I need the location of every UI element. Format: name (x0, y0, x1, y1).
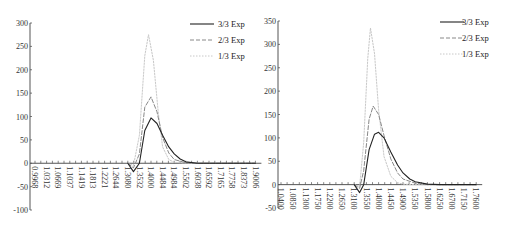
y-tick-label: 100 (16, 113, 28, 122)
x-tick-label: 1.4900 (398, 188, 407, 210)
x-tick-label: 1.2650 (337, 188, 346, 210)
x-tick-label: 1.6250 (435, 188, 444, 210)
right-chart: 350300250200150100500-501.04001.08501.13… (264, 17, 489, 213)
x-tick-label: 1.0312 (42, 166, 51, 188)
x-tick-label: 1.5800 (423, 188, 432, 210)
left-chart: 300250200150100500-50-1000.99681.03121.0… (13, 19, 261, 215)
legend-label: 1/3 Exp (218, 51, 245, 61)
legend-label: 2/3 Exp (462, 33, 489, 43)
y-tick-label: 300 (264, 40, 276, 49)
y-tick-label: 200 (264, 87, 276, 96)
y-tick-label: 300 (16, 19, 28, 28)
y-tick-label: 350 (264, 17, 276, 26)
legend: 3/3 Exp2/3 Exp1/3 Exp (190, 19, 245, 61)
y-tick-label: 50 (268, 157, 276, 166)
y-tick-label: 50 (20, 136, 28, 145)
x-tick-label: 1.4000 (146, 166, 155, 188)
x-tick-label: 1.6700 (447, 188, 456, 210)
x-tick-label: 1.0400 (276, 188, 285, 210)
legend-label: 3/3 Exp (462, 17, 489, 27)
y-tick-label: 150 (16, 89, 28, 98)
y-tick-label: 200 (16, 66, 28, 75)
legend: 3/3 Exp2/3 Exp1/3 Exp (440, 17, 489, 59)
y-tick-label: -50 (17, 183, 28, 192)
x-tick-label: 1.0669 (53, 166, 62, 188)
x-tick-label: 1.8373 (239, 166, 248, 188)
x-tick-label: 1.7600 (471, 188, 480, 210)
y-tick-label: 150 (264, 111, 276, 120)
y-tick-label: 100 (264, 134, 276, 143)
x-tick-label: 1.3100 (349, 188, 358, 210)
x-tick-label: 0.9968 (30, 166, 39, 188)
x-tick-label: 1.3080 (123, 166, 132, 188)
y-tick-label: -50 (265, 204, 276, 213)
x-tick-label: 1.4000 (374, 188, 383, 210)
legend-label: 1/3 Exp (462, 49, 489, 59)
y-tick-label: 250 (264, 64, 276, 73)
x-tick-label: 1.1750 (313, 188, 322, 210)
chart-canvas: 300250200150100500-50-1000.99681.03121.0… (0, 0, 505, 225)
y-tick-label: 0 (24, 159, 28, 168)
legend-label: 3/3 Exp (218, 19, 245, 29)
x-tick-label: 1.4484 (158, 166, 167, 188)
y-tick-label: 250 (16, 42, 28, 51)
x-tick-label: 1.5350 (410, 188, 419, 210)
x-tick-label: 1.7150 (459, 188, 468, 210)
x-tick-label: 1.3550 (362, 188, 371, 210)
x-tick-label: 1.5502 (181, 166, 190, 188)
legend-label: 2/3 Exp (218, 35, 245, 45)
x-tick-label: 1.6038 (193, 166, 202, 188)
x-tick-label: 1.3532 (135, 166, 144, 188)
y-tick-label: 0 (272, 181, 276, 190)
x-tick-label: 1.1813 (88, 166, 97, 188)
x-tick-label: 1.6592 (204, 166, 213, 188)
x-tick-label: 1.7758 (227, 166, 236, 188)
x-tick-label: 1.1300 (301, 188, 310, 210)
x-tick-label: 1.4450 (386, 188, 395, 210)
series-line-1-3-exp (354, 28, 476, 186)
x-tick-label: 1.2221 (100, 166, 109, 188)
x-tick-label: 1.7165 (216, 166, 225, 188)
x-tick-label: 1.1419 (77, 166, 86, 188)
y-tick-label: -100 (13, 206, 28, 215)
series-line-2-3-exp (354, 106, 476, 188)
x-tick-label: 1.9006 (251, 166, 260, 188)
x-tick-label: 1.4984 (169, 166, 178, 188)
x-tick-label: 1.2200 (325, 188, 334, 210)
series-line-2-3-exp (128, 97, 256, 168)
x-tick-label: 1.0850 (288, 188, 297, 210)
x-tick-label: 1.1037 (65, 166, 74, 188)
x-tick-label: 1.2644 (111, 166, 120, 188)
